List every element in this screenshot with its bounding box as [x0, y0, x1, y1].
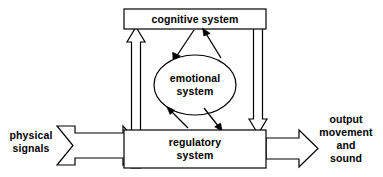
output-block-arrow [266, 130, 318, 167]
regulatory-system-label-line2: system [177, 149, 214, 161]
physical-signals-label-line2: signals [13, 142, 50, 154]
block-arrow-down-shape [249, 26, 267, 134]
emotional-to-cognitive-line [205, 32, 221, 58]
output-label-line4: sound [330, 152, 362, 164]
output-label-line2: movement [319, 126, 373, 138]
physical-signals-label-line1: physical [10, 129, 53, 141]
emotional-system-label-line2: system [177, 85, 214, 97]
output-label-line3: and [337, 139, 356, 151]
output-label-line1: output [329, 113, 363, 125]
cognitive-system-node: cognitive system [124, 9, 266, 29]
emotional-system-label-line1: emotional [170, 72, 221, 84]
regulatory-system-node: regulatory system [124, 130, 266, 168]
cognitive-to-emotional-line [176, 30, 194, 57]
regulatory-system-label-line1: regulatory [169, 136, 221, 148]
system-diagram: cognitive system emotional system [0, 0, 383, 177]
cognitive-system-label: cognitive system [152, 13, 239, 25]
cognitive-to-regulatory-arrow [249, 26, 267, 134]
output-label-group: output movement and sound [319, 113, 373, 164]
diagram-canvas: cognitive system emotional system [0, 0, 383, 177]
emotional-system-node: emotional system [154, 55, 236, 115]
emotional-to-cognitive-thin-arrow [203, 28, 221, 58]
output-arrow-shape [266, 130, 318, 167]
input-label-group: physical signals [10, 129, 53, 154]
